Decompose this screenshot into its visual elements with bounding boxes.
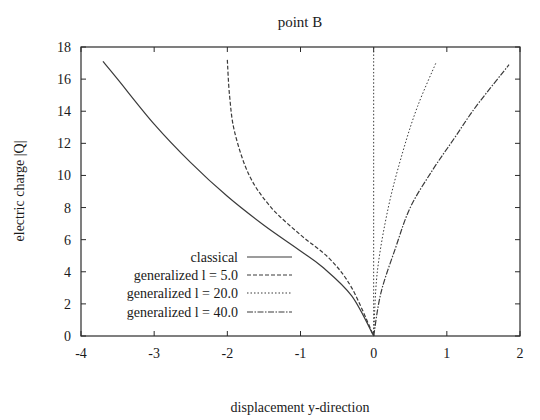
y-axis-label: electric charge |Q| (12, 141, 27, 242)
y-tick-label: 12 (57, 136, 71, 151)
y-tick-label: 8 (64, 201, 71, 216)
chart-title: point B (278, 14, 323, 30)
x-axis-label: displacement y-direction (231, 400, 370, 415)
legend: classicalgeneralized l = 5.0generalized … (127, 250, 292, 320)
chart: point B -4-3-2-1012 024681012141618 disp… (0, 0, 540, 420)
series-line (227, 60, 373, 336)
x-tick-label: 2 (517, 346, 524, 361)
x-tick-label: -2 (221, 346, 233, 361)
y-tick-label: 16 (57, 72, 71, 87)
y-tick-label: 2 (64, 297, 71, 312)
y-tick-label: 18 (57, 40, 71, 55)
legend-label: generalized l = 40.0 (127, 305, 238, 320)
legend-label: classical (191, 250, 239, 265)
series-line (374, 65, 509, 336)
x-tick-label: 0 (370, 346, 377, 361)
y-tick-label: 0 (64, 329, 71, 344)
legend-label: generalized l = 5.0 (134, 268, 238, 283)
x-tick-label: -1 (295, 346, 307, 361)
x-tick-label: -3 (148, 346, 160, 361)
y-tick-label: 14 (57, 104, 71, 119)
x-tick-label: 1 (443, 346, 450, 361)
y-tick-label: 4 (64, 265, 71, 280)
legend-label: generalized l = 20.0 (127, 286, 238, 301)
x-tick-label: -4 (75, 346, 87, 361)
y-tick-label: 6 (64, 233, 71, 248)
y-tick-label: 10 (57, 168, 71, 183)
series-line (374, 63, 436, 336)
